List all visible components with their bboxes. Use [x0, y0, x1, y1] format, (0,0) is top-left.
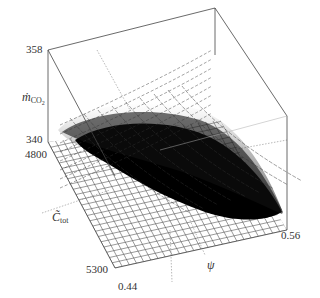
y-axis-sub: tot — [60, 216, 68, 225]
y-axis-name: C̃ — [52, 210, 60, 224]
x-tick-max: 0.56 — [281, 230, 300, 241]
y-tick-min: 4800 — [25, 149, 47, 160]
z-axis-label: ṁCO2 — [22, 91, 45, 106]
z-axis-sub2: 2 — [42, 100, 45, 106]
y-axis-label: C̃tot — [52, 211, 68, 225]
x-tick-min: 0.44 — [118, 281, 137, 292]
z-tick-max: 358 — [26, 44, 43, 55]
z-tick-min: 340 — [26, 134, 43, 145]
z-axis-name: ṁ — [22, 90, 31, 104]
y-tick-max: 5300 — [86, 264, 108, 275]
z-axis-sub: CO — [31, 96, 42, 105]
x-axis-label: ψ — [207, 259, 214, 271]
